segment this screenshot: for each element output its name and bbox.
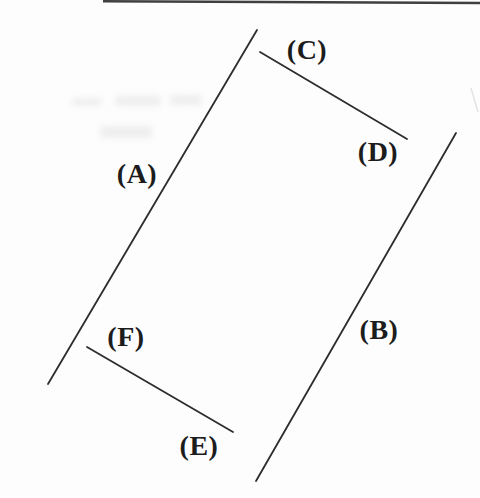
bleedthrough-artifact	[115, 96, 161, 106]
figure-lines	[0, 0, 480, 498]
figure-canvas: (A) (B) (C) (D) (E) (F)	[0, 0, 480, 498]
line-a	[48, 30, 257, 384]
label-b: (B)	[360, 314, 399, 346]
page-edge-artifact	[103, 1, 480, 3]
bleedthrough-artifact	[170, 95, 202, 105]
label-c: (C)	[287, 34, 327, 66]
line-fe	[87, 347, 233, 432]
label-d: (D)	[358, 136, 398, 168]
bleedthrough-artifact	[72, 98, 102, 106]
line-b	[256, 133, 456, 481]
bleedthrough-artifact	[100, 126, 152, 138]
edge-scratch-artifact	[471, 88, 478, 112]
label-a: (A)	[117, 158, 157, 190]
label-f: (F)	[107, 321, 144, 353]
line-cd	[260, 52, 407, 139]
label-e: (E)	[180, 430, 219, 462]
